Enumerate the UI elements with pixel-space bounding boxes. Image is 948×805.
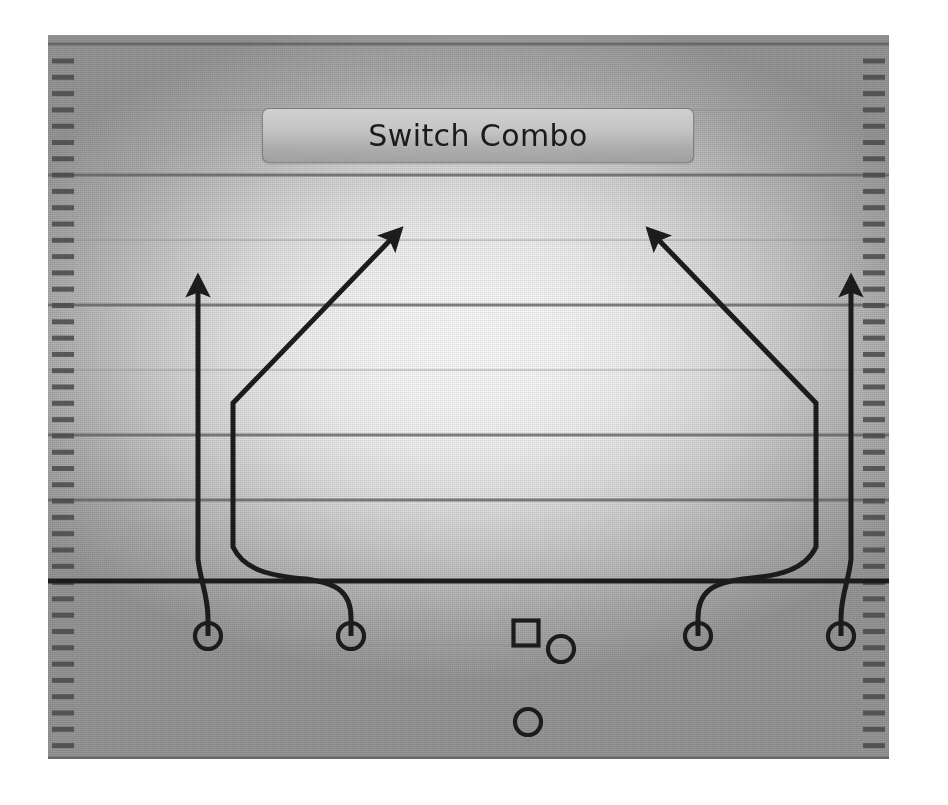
play-title: Switch Combo (368, 118, 587, 153)
player-marker-square (514, 621, 539, 646)
hash-marks-left (52, 61, 74, 746)
player-marker-circle (515, 709, 541, 735)
hash-marks-right (863, 61, 885, 746)
play-diagram-stage: Switch Combo (0, 0, 948, 805)
player-marker-circle (548, 636, 574, 662)
play-title-banner: Switch Combo (262, 108, 694, 163)
players (195, 621, 854, 736)
